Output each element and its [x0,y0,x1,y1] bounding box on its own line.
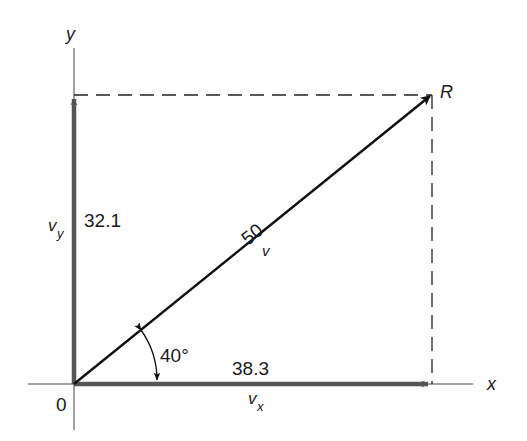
resultant-name-label: v [262,242,271,259]
vector-diagram: y x 0 R 50 v 40° 38.3 32.1 v x v y [0,0,527,441]
resultant-endpoint-label: R [440,82,453,102]
vx-value-label: 38.3 [232,358,269,379]
angle-label: 40° [160,345,189,366]
vy-name-label: v y [48,216,65,241]
vy-value-label: 32.1 [84,210,121,231]
svg-text:x: x [256,399,264,414]
origin-label: 0 [56,394,67,415]
y-axis-label: y [64,24,76,44]
vx-name-label: v x [248,389,264,414]
x-axis-label: x [486,374,497,394]
angle-arc [141,330,157,380]
svg-text:y: y [56,226,65,241]
